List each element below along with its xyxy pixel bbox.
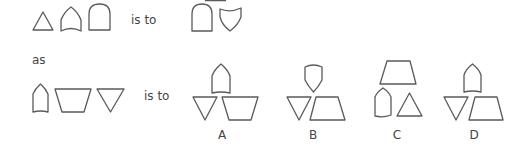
row2-source-group [33,84,124,112]
option-b-figure[interactable] [287,65,345,120]
analogy-puzzle: is to as is to A B C D [0,0,527,149]
triangle-shape [33,12,53,30]
shield-shape [305,65,322,92]
trapezoid-shape [310,97,345,120]
round-arch-shape [192,4,212,31]
inverted-trapezoid-shape [55,89,91,112]
connector-text: as [32,53,46,67]
trapezoid-shape [380,61,416,84]
option-b-label[interactable]: B [305,128,321,142]
option-c-label[interactable]: C [389,128,405,142]
row1-target-group [192,1,241,31]
option-a-label[interactable]: A [214,128,230,142]
inverted-triangle-shape [193,97,217,120]
puzzle-figures [0,0,527,149]
row1-source-group [33,4,110,31]
option-c-figure[interactable] [375,61,422,117]
option-d-figure[interactable] [444,64,503,120]
option-a-figure[interactable] [193,64,258,120]
bullet-pentagon-shape [464,64,481,92]
bullet-pentagon-shape [212,64,230,93]
shield-shape [220,8,241,31]
triangle-shape [397,93,422,116]
option-d-label[interactable]: D [466,128,482,142]
relation-text-row2: is to [144,89,169,103]
inverted-trapezoid-shape [222,97,258,120]
inverted-triangle-shape [287,97,311,120]
relation-text-row1: is to [131,13,156,27]
round-arch-shape [89,4,110,30]
inverted-triangle-shape [97,89,124,112]
bullet-pentagon-shape [33,84,48,112]
inverted-triangle-shape [444,97,468,120]
trapezoid-shape [469,97,503,120]
bullet-pentagon-shape [375,88,391,117]
pointed-arch-shape [61,7,81,31]
